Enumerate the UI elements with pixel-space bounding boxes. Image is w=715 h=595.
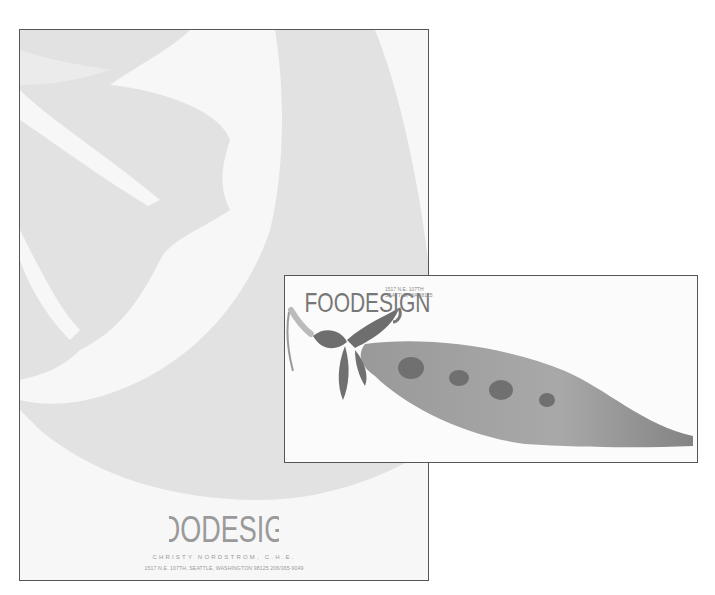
letterhead-logo: FOODESIGN (20, 502, 428, 550)
svg-text:FOODESIGN: FOODESIGN (169, 509, 279, 550)
pea-pod-artwork: FOODESIGN (285, 276, 697, 462)
envelope-address-line2: SEATTLE, WA 98125 (385, 292, 433, 298)
foodesign-wordmark: FOODESIGN (169, 502, 279, 550)
letterhead-address: 1517 N.E. 107TH, SEATTLE, WASHINGTON 981… (20, 565, 428, 571)
letterhead-name: CHRISTY NORDSTROM, C.H.E. (20, 554, 428, 560)
envelope: FOODESIGN 1517 N.E. 107TH SEATTLE, WA 98… (284, 275, 698, 463)
envelope-address: 1517 N.E. 107TH SEATTLE, WA 98125 (385, 286, 433, 298)
